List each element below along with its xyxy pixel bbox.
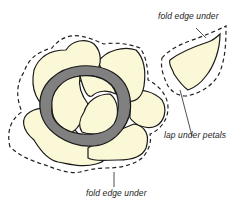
label-fold-edge-under-top: fold edge under [158,11,219,21]
inner-petals [52,76,118,134]
label-fold-edge-under-bottom: fold edge under [86,188,147,198]
rose-applique-diagram [0,0,238,210]
label-lap-under-petals: lap under petals [164,130,226,140]
leaf-piece [169,34,220,90]
